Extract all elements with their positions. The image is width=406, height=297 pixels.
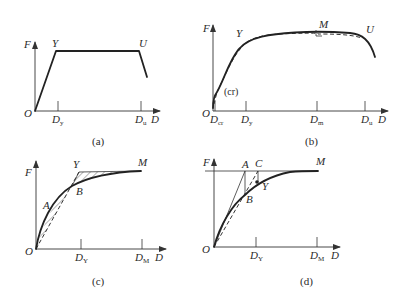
point-label-u: U [366,23,375,35]
panel-c: F Y M B A O DY DM D (c) [24,156,166,288]
axis-label-f: F [202,22,210,34]
origin-label: O [25,245,33,257]
panel-a: F Y U O Dy Du D (a) [23,37,160,148]
yield-point-dot [255,180,259,184]
axis-label-f: F [202,156,210,168]
point-label-a: A [42,199,50,211]
tick-label-dy: Dy [240,113,253,127]
point-label-a: A [241,158,249,170]
trilinear-curve [35,51,147,111]
axis-label-f: F [24,166,32,178]
hatched-area-upper [72,171,141,186]
point-label-m: M [137,156,148,168]
tick-label-dy: DY [249,249,263,263]
point-label-b: B [246,193,253,205]
secant-line-oc [214,171,258,247]
caption-d: (d) [300,275,313,288]
point-label-m: M [318,18,329,30]
tick-label-du: Du [134,113,147,127]
point-label-y: Y [52,37,60,49]
tick-label-dm: DM [134,251,150,265]
point-label-cr: (cr) [224,86,238,98]
point-label-m: M [315,155,326,167]
caption-c: (c) [92,275,105,288]
panel-b: F (cr) Y M U O Dcr Dy Dm Du D (b) [202,18,388,148]
axis-label-d: D [150,113,159,125]
load-displacement-figure: F Y U O Dy Du D (a) F (cr) Y M U O Dcr D… [0,0,406,297]
point-label-c: C [255,157,263,169]
axis-label-d: D [154,251,163,263]
point-label-b: B [76,185,83,197]
axis-label-f: F [23,38,31,50]
caption-a: (a) [92,135,105,148]
tick-label-dy: DY [74,251,88,265]
caption-b: (b) [305,135,318,148]
origin-label: O [24,107,32,119]
tick-label-du: Du [360,113,373,127]
origin-label: O [202,107,210,119]
tick-label-dm: DM [309,249,325,263]
point-label-y: Y [73,158,81,170]
tick-label-dy: Dy [51,113,64,127]
point-label-y: Y [262,180,270,192]
axis-label-d: D [330,249,339,261]
point-label-u: U [139,37,148,49]
tangent-line-oa [214,171,245,247]
tick-label-dm: Dm [309,113,324,127]
point-label-y: Y [236,27,244,39]
panel-d: F A C M Y B O DY DM D (d) [202,155,340,288]
tick-label-dcr: Dcr [209,113,224,127]
axis-label-d: D [377,113,386,125]
origin-label: O [202,243,210,255]
